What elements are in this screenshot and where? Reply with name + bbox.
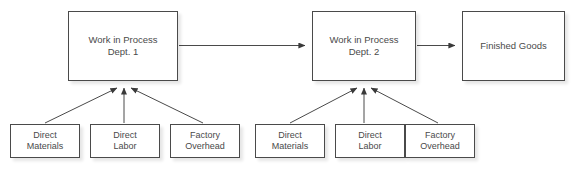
node-label: Factory Overhead <box>183 130 227 152</box>
node-factory-overhead-2: Factory Overhead <box>405 124 475 158</box>
node-work-in-process-dept-1: Work in Process Dept. 1 <box>68 11 178 81</box>
connector-factory-overhead-2-to-wip2 <box>371 88 438 123</box>
node-direct-materials-2: Direct Materials <box>255 124 325 158</box>
node-label: Direct Materials <box>25 130 66 152</box>
node-work-in-process-dept-2: Work in Process Dept. 2 <box>312 11 416 81</box>
connector-direct-materials-to-wip1 <box>45 88 117 123</box>
node-label: Direct Materials <box>270 130 311 152</box>
node-finished-goods: Finished Goods <box>462 11 565 81</box>
node-factory-overhead-1: Factory Overhead <box>170 124 240 158</box>
node-label: Work in Process Dept. 1 <box>87 34 160 57</box>
node-direct-labor-2: Direct Labor <box>335 124 405 158</box>
node-label: Direct Labor <box>356 130 384 152</box>
process-costing-diagram: Work in Process Dept. 1 Work in Process … <box>0 0 579 176</box>
node-direct-labor-1: Direct Labor <box>90 124 160 158</box>
node-label: Work in Process Dept. 2 <box>328 34 401 57</box>
node-direct-materials-1: Direct Materials <box>10 124 80 158</box>
connector-factory-overhead-to-wip1 <box>131 88 203 123</box>
node-label: Finished Goods <box>478 40 549 52</box>
node-label: Factory Overhead <box>418 130 462 152</box>
connector-direct-materials-2-to-wip2 <box>290 88 357 123</box>
node-label: Direct Labor <box>111 130 139 152</box>
